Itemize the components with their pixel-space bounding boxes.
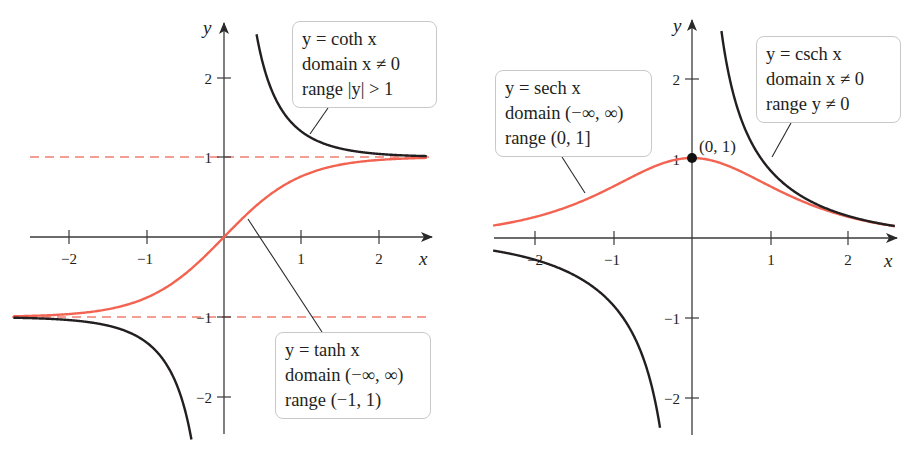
csch-pointer-line — [772, 123, 791, 157]
y-tick-label: 2 — [673, 72, 681, 88]
y-axis-label: y — [671, 15, 682, 36]
y-tick-label: −1 — [196, 310, 212, 326]
x-axis-label: x — [883, 250, 893, 271]
hyperbolic-functions-figure: −2 −1 1 2 x 2 1 −1 −2 y — [0, 0, 905, 449]
csch-equation: y = csch x — [766, 42, 900, 67]
sech-range: range (0, 1] — [505, 126, 651, 151]
csch-range: range y ≠ 0 — [766, 92, 900, 117]
tanh-pointer-line — [248, 219, 322, 332]
sech-label-box: y = sech x domain (−∞, ∞) range (0, 1] — [495, 70, 652, 157]
x-tick-label: 2 — [375, 251, 383, 267]
tanh-equation: y = tanh x — [285, 338, 430, 363]
point-0-1-marker — [687, 153, 697, 163]
coth-domain: domain x ≠ 0 — [302, 52, 436, 77]
x-tick-label: −1 — [604, 252, 620, 268]
coth-pointer-line — [310, 108, 328, 134]
x-tick-label: 2 — [844, 252, 852, 268]
tanh-label-box: y = tanh x domain (−∞, ∞) range (−1, 1) — [275, 332, 431, 419]
x-tick-label: 1 — [767, 252, 775, 268]
x-axis-label: x — [418, 248, 428, 269]
point-0-1-label: (0, 1) — [699, 137, 736, 157]
coth-range: range |y| > 1 — [302, 77, 436, 102]
y-axis-label: y — [201, 17, 212, 38]
sech-curve — [493, 158, 895, 226]
coth-equation: y = coth x — [302, 27, 436, 52]
y-tick-label: −2 — [196, 390, 212, 406]
csch-domain: domain x ≠ 0 — [766, 67, 900, 92]
coth-label-box: y = coth x domain x ≠ 0 range |y| > 1 — [292, 21, 437, 108]
csch-curve-negative-branch — [493, 251, 660, 428]
x-tick-label: −1 — [137, 251, 153, 267]
y-tick-label: −2 — [664, 391, 680, 407]
tanh-domain: domain (−∞, ∞) — [285, 363, 430, 388]
sech-pointer-line — [562, 157, 585, 193]
csch-label-box: y = csch x domain x ≠ 0 range y ≠ 0 — [756, 36, 901, 123]
y-tick-label: −1 — [664, 311, 680, 327]
tanh-range: range (−1, 1) — [285, 388, 430, 413]
x-tick-label: 1 — [297, 251, 305, 267]
coth-curve-negative-branch — [13, 318, 191, 440]
y-tick-label: 1 — [205, 150, 213, 166]
y-tick-label: 2 — [205, 71, 213, 87]
sech-domain: domain (−∞, ∞) — [505, 101, 651, 126]
x-tick-label: −2 — [61, 251, 77, 267]
sech-equation: y = sech x — [505, 76, 651, 101]
